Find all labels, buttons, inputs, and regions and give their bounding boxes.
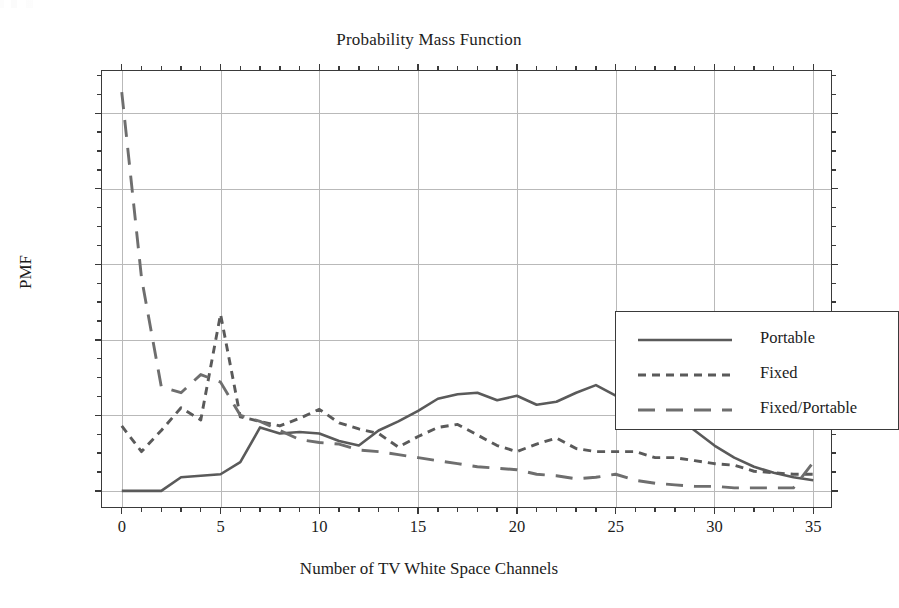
legend-label: Fixed bbox=[760, 363, 798, 383]
chart-legend: PortableFixedFixed/Portable bbox=[615, 311, 899, 430]
legend-line-swatch bbox=[638, 332, 732, 344]
legend-item-portable[interactable]: Portable bbox=[616, 320, 898, 356]
x-axis-tick bbox=[121, 64, 122, 71]
x-axis-tick bbox=[516, 64, 517, 71]
y-axis-tick bbox=[95, 113, 102, 114]
chart-title: Probability Mass Function bbox=[0, 30, 858, 50]
series-lines bbox=[102, 71, 833, 509]
y-axis-tick bbox=[95, 490, 102, 491]
x-axis-tick bbox=[417, 64, 418, 71]
x-axis-tick bbox=[220, 64, 221, 71]
x-tick-label: 30 bbox=[706, 517, 723, 537]
x-axis-tick bbox=[813, 64, 814, 71]
x-axis-tick bbox=[714, 64, 715, 71]
y-axis-tick bbox=[95, 188, 102, 189]
y-axis-tick bbox=[95, 264, 102, 265]
x-axis-title: Number of TV White Space Channels bbox=[0, 559, 858, 579]
y-axis-tick bbox=[95, 415, 102, 416]
legend-line-swatch bbox=[638, 367, 732, 379]
legend-label: Portable bbox=[760, 328, 815, 348]
legend-label: Fixed/Portable bbox=[760, 398, 857, 418]
x-tick-label: 0 bbox=[118, 517, 126, 537]
x-tick-label: 35 bbox=[805, 517, 822, 537]
legend-item-fixed[interactable]: Fixed bbox=[616, 355, 898, 391]
legend-item-fixed-portable[interactable]: Fixed/Portable bbox=[616, 390, 898, 426]
y-axis-title: PMF bbox=[16, 255, 36, 289]
x-tick-label: 5 bbox=[216, 517, 224, 537]
plot-area: 0.000.050.100.150.200.2505101520253035 P… bbox=[101, 70, 832, 508]
x-tick-label: 25 bbox=[607, 517, 624, 537]
x-tick-label: 20 bbox=[509, 517, 526, 537]
x-axis-tick bbox=[615, 64, 616, 71]
legend-line-swatch bbox=[638, 402, 732, 414]
y-axis-tick bbox=[95, 339, 102, 340]
x-axis-tick bbox=[319, 64, 320, 71]
x-tick-label: 15 bbox=[410, 517, 427, 537]
x-tick-label: 10 bbox=[311, 517, 328, 537]
